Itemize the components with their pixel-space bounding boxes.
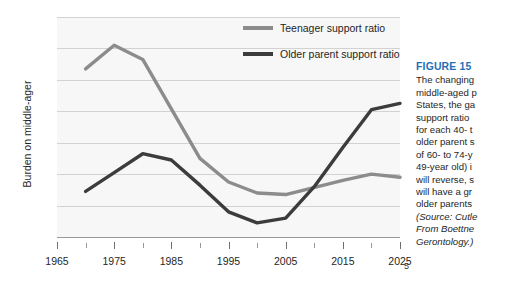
- x-tick-label: 2015: [331, 255, 354, 267]
- legend-swatch-teenager: [243, 26, 273, 30]
- x-tick-minor: [200, 243, 201, 248]
- x-tick-major: [171, 242, 172, 249]
- gridline: [57, 80, 400, 81]
- legend-label-teenager: Teenager support ratio: [280, 22, 385, 34]
- x-tick-label: 1995: [217, 255, 240, 267]
- x-tick-major: [229, 242, 230, 249]
- figure-caption-body: The changing middle-aged p States, the g…: [416, 74, 510, 210]
- legend-item-teenager-support-ratio: Teenager support ratio: [243, 22, 400, 34]
- x-tick-minor: [86, 243, 87, 248]
- legend-item-older-parent-support-ratio: Older parent support ratio: [243, 48, 400, 60]
- y-axis-title: Burden on middle-ager: [21, 44, 33, 224]
- page-number: 5: [404, 261, 409, 271]
- gridline: [57, 206, 400, 207]
- gridline: [57, 143, 400, 144]
- figure-caption-source: (Source: Cutle From Boettne Gerontology.…: [416, 211, 510, 248]
- x-axis-line: [57, 237, 400, 238]
- figure-root: 2.01.81.61.41.21.00.80.6 196519751985199…: [0, 0, 510, 281]
- legend: Teenager support ratio Older parent supp…: [243, 22, 400, 60]
- x-tick-label: 1975: [102, 255, 125, 267]
- gridline: [57, 174, 400, 175]
- gridline: [57, 111, 400, 112]
- x-tick-label: 2005: [274, 255, 297, 267]
- x-tick-major: [57, 242, 58, 249]
- x-tick-major: [286, 242, 287, 249]
- figure-caption-title: FIGURE 15: [416, 61, 510, 73]
- x-tick-minor: [257, 243, 258, 248]
- x-tick-major: [343, 242, 344, 249]
- x-tick-minor: [314, 243, 315, 248]
- legend-swatch-older-parent: [243, 52, 273, 56]
- x-tick-minor: [143, 243, 144, 248]
- x-tick-label: 1965: [45, 255, 68, 267]
- x-tick-major: [114, 242, 115, 249]
- gridline: [57, 17, 400, 18]
- figure-caption: FIGURE 15 The changing middle-aged p Sta…: [416, 61, 510, 273]
- x-tick-minor: [371, 243, 372, 248]
- chart-panel: 2.01.81.61.41.21.00.80.6 196519751985199…: [0, 0, 406, 281]
- x-tick-major: [400, 242, 401, 249]
- x-tick-label: 1985: [160, 255, 183, 267]
- legend-label-older-parent: Older parent support ratio: [280, 48, 400, 60]
